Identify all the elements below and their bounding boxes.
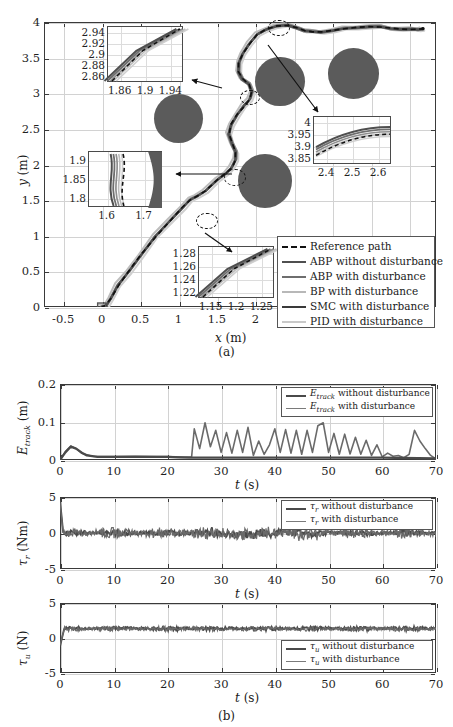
ytick — [45, 166, 49, 167]
inset-ytick-label: 1.22 — [166, 286, 196, 298]
ytick — [61, 570, 65, 571]
figure-root: x (m) y (m) (a) t (s) Etrack (m) t (s) τ… — [0, 0, 453, 727]
legend-symbol: E — [310, 388, 317, 398]
xtick — [141, 302, 142, 306]
legend-row: ABP with disturbance — [278, 269, 434, 284]
xtick — [222, 564, 223, 568]
xtick — [330, 455, 331, 459]
ytick — [45, 308, 49, 309]
legend-label: BP with disturbance — [310, 286, 418, 297]
ytick — [45, 237, 49, 238]
inset-ytick-label: 3.85 — [281, 152, 311, 164]
xtick — [383, 564, 384, 568]
main-ytick-label: 1.5 — [10, 193, 40, 207]
ytick-right — [431, 423, 435, 424]
xtick — [437, 564, 438, 568]
main-ytick-label: 2 — [10, 158, 40, 172]
legend-swatch — [282, 261, 306, 263]
gridline-vertical — [115, 498, 116, 568]
etrack-ytick-label: 0 — [28, 453, 56, 467]
inset-mid-left — [88, 151, 162, 207]
ytick — [45, 23, 49, 24]
etrack-xtick-label: 40 — [257, 464, 293, 478]
main-xaxis-label: x (m) — [215, 331, 246, 345]
xtick — [168, 455, 169, 459]
ytick — [45, 94, 49, 95]
ytick — [45, 59, 49, 60]
ytick-right — [431, 604, 435, 605]
tau-r-xaxis-label: t (s) — [235, 587, 259, 601]
legend-label-text: with disturbance — [320, 654, 400, 664]
ytick-right — [431, 59, 435, 60]
xtick — [168, 564, 169, 568]
inset-top-left — [107, 26, 183, 82]
gridline-vertical — [168, 604, 169, 672]
etrack-ytick-label: 0.1 — [28, 415, 56, 429]
etrack-legend-row: Etrack without disturbance — [282, 389, 432, 402]
tau_u-ytick-label: 5 — [28, 596, 56, 610]
inset-xtick-label: 1.25 — [245, 300, 277, 312]
ytick-right — [431, 130, 435, 131]
tau_u-ytick-label: -5 — [28, 666, 56, 680]
gridline-horizontal — [61, 461, 435, 462]
ytick — [45, 130, 49, 131]
legend-swatch — [286, 508, 306, 510]
gridline-vertical — [437, 498, 438, 568]
gridline-vertical — [437, 385, 438, 459]
inset-ytick-label: 1.28 — [166, 247, 196, 259]
ytick-right — [431, 23, 435, 24]
inset-ytick-label: 2.94 — [75, 26, 105, 38]
legend-swatch — [282, 291, 306, 293]
inset-ytick-label: 1.26 — [166, 260, 196, 272]
legend-symbol-subscript: track — [317, 406, 336, 414]
tau_u-xtick-label: 70 — [418, 677, 453, 691]
legend-label: Etrack with disturbance — [310, 401, 415, 416]
legend-swatch — [282, 321, 306, 323]
xtick-top — [437, 498, 438, 502]
ytick — [61, 674, 65, 675]
xtick — [61, 564, 62, 568]
tau_u-xtick-label: 20 — [149, 677, 185, 691]
ytick — [61, 639, 65, 640]
inset-curve — [116, 29, 188, 81]
tau_r-legend-row: τr with disturbance — [282, 515, 432, 528]
legend-swatch — [286, 521, 306, 522]
ytick — [61, 461, 65, 462]
tau-u-xaxis-label: t (s) — [235, 691, 259, 705]
etrack-xaxis-label: t (s) — [235, 478, 259, 492]
main-xtick-label: 0.5 — [120, 312, 160, 326]
inset-ytick-label: 1.24 — [166, 273, 196, 285]
tau_u-xtick-label: 10 — [96, 677, 132, 691]
inset-ytick-label: 2.86 — [75, 70, 105, 82]
xtick — [437, 455, 438, 459]
inset-curves — [89, 152, 163, 208]
gridline-vertical — [276, 385, 277, 459]
inset-ytick-label: 3.9 — [281, 140, 311, 152]
tau_u-xtick-label: 40 — [257, 677, 293, 691]
gridline-horizontal — [61, 385, 435, 386]
xtick — [64, 302, 65, 306]
gridline-horizontal — [61, 423, 435, 424]
xtick — [103, 302, 104, 306]
etrack-xtick-label: 60 — [364, 464, 400, 478]
gridline-horizontal — [45, 23, 435, 24]
gridline-vertical — [61, 604, 62, 672]
ytick-right — [431, 385, 435, 386]
ytick — [61, 534, 65, 535]
main-ytick-label: 4 — [10, 15, 40, 29]
ytick — [45, 201, 49, 202]
legend-label-text: with disturbance — [335, 401, 415, 411]
legend-label: Reference path — [310, 241, 392, 252]
inset-ytick-label: 1.8 — [56, 192, 86, 204]
ytick-right — [431, 166, 435, 167]
legend-symbol: E — [310, 401, 317, 411]
inset-ytick-label: 3.95 — [281, 128, 311, 140]
gridline-horizontal — [61, 498, 435, 499]
etrack-legend: Etrack without disturbanceEtrack with di… — [281, 387, 433, 417]
ytick — [61, 385, 65, 386]
gridline-vertical — [276, 604, 277, 672]
legend-label: PID with disturbance — [310, 316, 423, 327]
inset-curves — [199, 247, 275, 299]
legend-row: SMC with disturbance — [278, 299, 434, 314]
etrack-xtick-label: 70 — [418, 464, 453, 478]
